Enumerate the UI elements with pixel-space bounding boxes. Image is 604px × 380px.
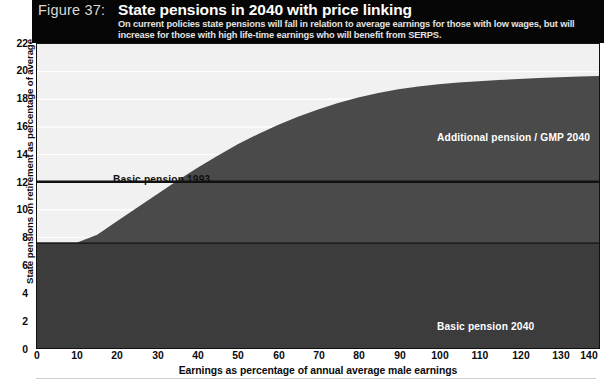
x-tick-140: 140 — [574, 350, 604, 361]
y-tick-2: 2 — [2, 316, 28, 327]
y-tick-14: 14 — [2, 149, 28, 160]
x-tick-100: 100 — [425, 350, 455, 361]
x-tick-0: 0 — [22, 350, 52, 361]
figure-title: State pensions in 2040 with price linkin… — [118, 1, 412, 19]
chart-svg — [37, 44, 599, 348]
x-tick-130: 130 — [546, 350, 576, 361]
x-tick-70: 70 — [304, 350, 334, 361]
y-tick-10: 10 — [2, 204, 28, 215]
y-tick-8: 8 — [2, 232, 28, 243]
x-tick-60: 60 — [264, 350, 294, 361]
y-tick-18: 18 — [2, 93, 28, 104]
y-tick-20: 20 — [2, 65, 28, 76]
x-tick-80: 80 — [344, 350, 374, 361]
y-tick-4: 4 — [2, 288, 28, 299]
label-basic-pension-1993: Basic pension 1993 — [113, 174, 210, 185]
x-tick-110: 110 — [465, 350, 495, 361]
x-tick-40: 40 — [183, 350, 213, 361]
figure-header: Figure 37: State pensions in 2040 with p… — [32, 0, 604, 43]
y-tick-16: 16 — [2, 121, 28, 132]
x-tick-10: 10 — [62, 350, 92, 361]
x-tick-20: 20 — [102, 350, 132, 361]
area-basic-pension-2040 — [37, 244, 599, 348]
x-tick-30: 30 — [143, 350, 173, 361]
x-tick-90: 90 — [385, 350, 415, 361]
y-tick-22: 22 — [2, 38, 28, 49]
plot-canvas — [37, 44, 599, 348]
plot-area: Basic pension 1993 Additional pension / … — [36, 43, 600, 349]
label-additional-pension-gmp-2040: Additional pension / GMP 2040 — [437, 132, 590, 143]
figure-container: Figure 37: State pensions in 2040 with p… — [0, 0, 604, 380]
label-basic-pension-2040: Basic pension 2040 — [437, 321, 534, 332]
figure-number: Figure 37: — [38, 2, 105, 18]
x-tick-50: 50 — [223, 350, 253, 361]
x-axis-title: Earnings as percentage of annual average… — [36, 365, 600, 376]
page-bottom-rule — [36, 378, 596, 379]
y-tick-12: 12 — [2, 177, 28, 188]
figure-subtitle: On current policies state pensions will … — [118, 19, 600, 41]
y-tick-6: 6 — [2, 260, 28, 271]
x-tick-120: 120 — [506, 350, 536, 361]
